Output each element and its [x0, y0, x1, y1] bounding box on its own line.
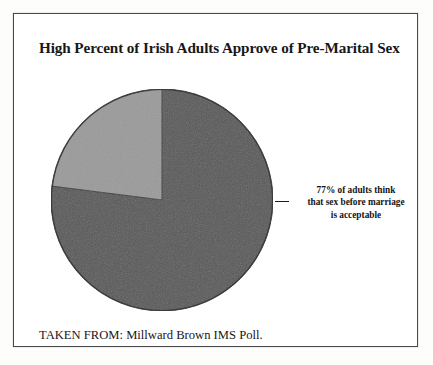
pie-chart [51, 89, 273, 311]
source-caption: TAKEN FROM: Millward Brown IMS Poll. [39, 328, 263, 343]
pie-chart-svg [51, 89, 273, 311]
annotation-label: 77% of adults think that sex before marr… [290, 184, 422, 221]
annotation-line-3: is acceptable [290, 209, 422, 221]
annotation-line-2: that sex before marriage [290, 196, 422, 208]
annotation-leader-line [275, 201, 289, 202]
figure-frame: High Percent of Irish Adults Approve of … [13, 13, 418, 347]
annotation-line-1: 77% of adults think [290, 184, 422, 196]
figure-container: High Percent of Irish Adults Approve of … [0, 0, 433, 365]
chart-title: High Percent of Irish Adults Approve of … [39, 38, 421, 57]
pie-slice-other [52, 89, 162, 200]
